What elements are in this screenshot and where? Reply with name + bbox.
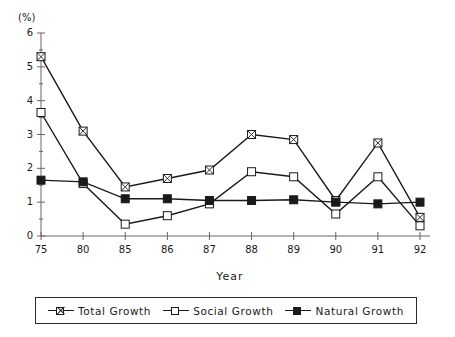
data-point-total-growth-75 (37, 53, 45, 61)
x-tick-label: 85 (110, 245, 140, 255)
legend-item-total-growth: Total Growth (48, 305, 151, 317)
series-line-natural-growth (41, 180, 420, 204)
data-point-total-growth-91 (374, 139, 382, 147)
data-point-natural-growth-87 (205, 196, 213, 204)
legend-item-social-growth: Social Growth (163, 305, 273, 317)
data-point-social-growth-75 (37, 109, 45, 117)
chart-plot-area (0, 0, 455, 337)
legend-label-total-growth: Total Growth (78, 305, 151, 317)
data-point-natural-growth-86 (163, 195, 171, 203)
data-point-total-growth-87 (205, 166, 213, 174)
y-tick-label: 5 (17, 62, 33, 72)
data-point-total-growth-85 (121, 183, 129, 191)
legend-marker-open-square-icon (163, 305, 189, 317)
y-tick-label: 2 (17, 163, 33, 173)
data-point-natural-growth-90 (332, 198, 340, 206)
x-tick-label: 89 (279, 245, 309, 255)
x-tick-label: 91 (363, 245, 393, 255)
data-point-total-growth-89 (290, 136, 298, 144)
data-point-total-growth-92 (416, 213, 424, 221)
y-tick-label: 3 (17, 130, 33, 140)
x-tick-label: 75 (26, 245, 56, 255)
data-point-social-growth-89 (290, 173, 298, 181)
legend-marker-filled-square-icon (285, 305, 311, 317)
data-point-natural-growth-89 (290, 196, 298, 204)
x-tick-label: 87 (194, 245, 224, 255)
data-point-total-growth-86 (163, 174, 171, 182)
legend-label-social-growth: Social Growth (193, 305, 273, 317)
series-line-total-growth (41, 57, 420, 218)
data-point-natural-growth-75 (37, 176, 45, 184)
data-point-social-growth-91 (374, 173, 382, 181)
series-line-social-growth (41, 113, 420, 226)
data-point-social-growth-86 (163, 212, 171, 220)
chart-legend: Total Growth Social Growth Natural Growt… (35, 297, 417, 324)
data-point-natural-growth-92 (416, 198, 424, 206)
data-point-natural-growth-85 (121, 195, 129, 203)
y-tick-label: 6 (17, 28, 33, 38)
data-point-total-growth-88 (248, 131, 256, 139)
x-tick-label: 90 (321, 245, 351, 255)
x-axis-title: Year (170, 270, 290, 283)
legend-marker-crossed-square-icon (48, 305, 74, 317)
y-tick-label: 0 (17, 231, 33, 241)
growth-rate-line-chart: (%) 0123456 75808586878889909192 Year To… (0, 0, 455, 337)
x-tick-label: 86 (152, 245, 182, 255)
data-point-social-growth-92 (416, 222, 424, 230)
y-tick-label: 4 (17, 96, 33, 106)
x-tick-label: 88 (237, 245, 267, 255)
data-point-social-growth-90 (332, 210, 340, 218)
data-point-natural-growth-80 (79, 178, 87, 186)
x-tick-label: 80 (68, 245, 98, 255)
data-point-natural-growth-91 (374, 200, 382, 208)
data-point-total-growth-80 (79, 127, 87, 135)
y-tick-label: 1 (17, 197, 33, 207)
data-point-natural-growth-88 (248, 196, 256, 204)
data-point-social-growth-85 (121, 220, 129, 228)
legend-item-natural-growth: Natural Growth (285, 305, 403, 317)
legend-label-natural-growth: Natural Growth (315, 305, 403, 317)
x-tick-label: 92 (405, 245, 435, 255)
data-point-social-growth-88 (248, 168, 256, 176)
